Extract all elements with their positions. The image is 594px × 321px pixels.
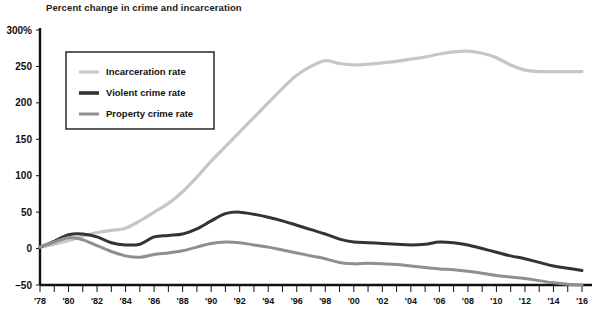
y-tick-label-6: 0 — [26, 243, 32, 254]
x-tick-label-30: '08 — [462, 296, 474, 306]
legend-label-2: Property crime rate — [106, 108, 193, 119]
x-tick-label-32: '10 — [490, 296, 502, 306]
x-tick-label-8: '86 — [148, 296, 160, 306]
legend-label-1: Violent crime rate — [106, 87, 186, 98]
x-tick-label-36: '14 — [547, 296, 559, 306]
x-tick-label-38: '16 — [576, 296, 588, 306]
y-tick-label-2: 200 — [15, 97, 32, 108]
line-chart-plot: 300%250200150100500–50 '78'80'82'84'86'8… — [0, 0, 594, 321]
x-tick-label-10: '88 — [177, 296, 189, 306]
x-tick-label-4: '82 — [91, 296, 103, 306]
x-tick-label-14: '92 — [234, 296, 246, 306]
x-tick-label-18: '96 — [291, 296, 303, 306]
y-tick-label-1: 250 — [15, 61, 32, 72]
y-tick-label-0: 300% — [6, 25, 32, 36]
x-tick-label-6: '84 — [120, 296, 132, 306]
y-tick-label-7: –50 — [15, 280, 32, 291]
x-tick-label-34: '12 — [519, 296, 531, 306]
x-tick-label-0: '78 — [34, 296, 46, 306]
y-axis-ticks: 300%250200150100500–50 — [6, 25, 40, 291]
chart-legend: Incarceration rateViolent crime rateProp… — [66, 52, 214, 129]
x-tick-label-26: '04 — [405, 296, 417, 306]
y-tick-label-4: 100 — [15, 170, 32, 181]
x-tick-label-24: '02 — [376, 296, 388, 306]
series-line-violent-crime-rate — [40, 212, 582, 270]
x-tick-label-28: '06 — [433, 296, 445, 306]
x-tick-label-22: '00 — [348, 296, 360, 306]
y-tick-label-3: 150 — [15, 134, 32, 145]
x-tick-label-20: '98 — [319, 296, 331, 306]
y-tick-label-5: 50 — [21, 207, 33, 218]
chart-figure: Percent change in crime and incarceratio… — [0, 0, 594, 321]
x-tick-label-2: '80 — [62, 296, 74, 306]
x-axis-ticks: '78'80'82'84'86'88'90'92'94'96'98'00'02'… — [34, 285, 588, 306]
legend-label-0: Incarceration rate — [106, 66, 186, 77]
x-tick-label-16: '94 — [262, 296, 274, 306]
x-tick-label-12: '90 — [205, 296, 217, 306]
